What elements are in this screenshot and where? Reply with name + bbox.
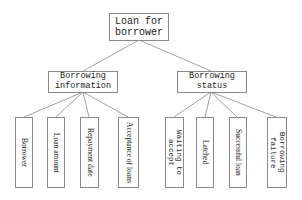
leaf-node-borrower: Borrower (15, 117, 33, 188)
leaf-node-label: Waiting to accept (166, 118, 183, 187)
leaf-node-label: Borrowing failure (268, 118, 285, 187)
leaf-node-borrowing-failure: Borrowing failure (267, 117, 287, 188)
leaf-node-loan-amount: Loan amount (47, 117, 65, 188)
leaf-node-latched: Latched (196, 117, 214, 188)
leaf-node-acceptance-of-loans: Acceptance of loans (118, 117, 139, 188)
branch-node-borrowing-status: Borrowing status (177, 71, 247, 93)
leaf-node-label: Repayment date (85, 128, 94, 177)
root-node-label: Loan for borrower (110, 16, 168, 39)
leaf-node-waiting-to-accept: Waiting to accept (165, 117, 184, 188)
root-node: Loan for borrower (109, 13, 169, 41)
branch-node-label: Borrowing information (49, 72, 117, 92)
leaf-node-repayment-date: Repayment date (80, 117, 99, 188)
leaf-node-label: Acceptance of loans (124, 122, 133, 183)
leaf-node-label: Loan amount (52, 133, 61, 173)
leaf-node-label: Latched (201, 140, 210, 164)
leaf-node-label: Successful loan (234, 129, 243, 176)
branch-node-label: Borrowing status (178, 72, 246, 92)
leaf-node-successful-loan: Successful loan (229, 117, 247, 188)
leaf-node-label: Borrower (20, 138, 29, 167)
branch-node-borrowing-information: Borrowing information (48, 71, 118, 93)
